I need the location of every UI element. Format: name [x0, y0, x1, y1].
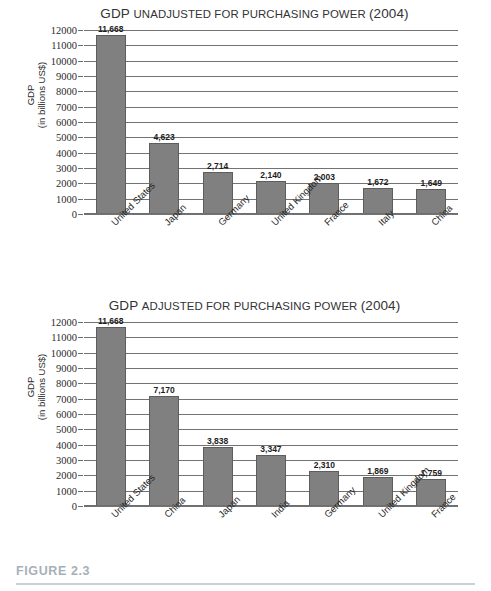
y-tick-mark — [78, 445, 83, 446]
y-tick-mark — [78, 399, 83, 400]
y-tick-label: 2000 — [56, 470, 77, 481]
chart-title-tail: (2004) — [369, 6, 409, 21]
y-tick-mark — [78, 414, 83, 415]
y-tick-label: 5000 — [56, 424, 77, 435]
y-tick-label: 12000 — [51, 25, 77, 36]
y-axis-label-unadjusted: GDP (in billions US$) — [25, 35, 47, 155]
y-tick-label: 11000 — [51, 332, 77, 343]
chart-title-adjusted: GDP ADJUSTED FOR PURCHASING POWER (2004) — [0, 296, 491, 316]
bar-slot: 2,310 — [298, 322, 351, 506]
category-slot: United Kingdom — [244, 216, 297, 288]
y-tick-mark — [78, 45, 83, 46]
y-tick-mark — [78, 107, 83, 108]
y-tick-mark — [78, 168, 83, 169]
y-tick-label: 10000 — [51, 55, 77, 66]
y-tick-label: 0 — [72, 501, 77, 512]
category-slot: Italy — [351, 216, 404, 288]
category-slot: China — [405, 216, 458, 288]
y-tick-label: 11000 — [51, 40, 77, 51]
y-tick-mark — [78, 199, 83, 200]
bar-value-label: 7,170 — [153, 385, 174, 395]
y-tick-mark — [78, 506, 83, 507]
plot-area-adjusted: 1200011000100009000800070006000500040003… — [84, 322, 458, 506]
y-axis-label-line1: GDP — [25, 377, 36, 398]
plot-area-unadjusted: 1200011000100009000800070006000500040003… — [84, 30, 458, 214]
y-tick-label: 5000 — [56, 132, 77, 143]
y-tick-label: 6000 — [56, 117, 77, 128]
y-tick-mark — [78, 368, 83, 369]
chart-title-smallcaps-3: POWER — [314, 300, 361, 312]
y-tick-mark — [78, 137, 83, 138]
bar-value-label: 1,672 — [367, 177, 388, 187]
bar: 7,170 — [149, 396, 179, 506]
y-tick-mark — [78, 61, 83, 62]
chart-gdp-adjusted: GDP ADJUSTED FOR PURCHASING POWER (2004)… — [0, 296, 491, 546]
y-tick-label: 3000 — [56, 455, 77, 466]
bar: 11,668 — [96, 35, 126, 214]
y-tick-mark — [78, 353, 83, 354]
y-tick-label: 12000 — [51, 317, 77, 328]
bar-series-unadjusted: 11,6684,6232,7142,1402,0031,6721,649 — [84, 30, 458, 214]
chart-title-unadjusted: GDP UNADJUSTED FOR PURCHASING POWER (200… — [0, 4, 491, 24]
bar-value-label: 3,838 — [207, 436, 228, 446]
bar: 4,623 — [149, 143, 179, 214]
plot-wrapper-unadjusted: GDP (in billions US$) 120001100010000900… — [0, 24, 491, 292]
gridline — [84, 214, 458, 215]
category-slot: Japan — [137, 216, 190, 288]
y-tick-label: 8000 — [56, 86, 77, 97]
y-tick-label: 9000 — [56, 71, 77, 82]
gridline — [84, 506, 458, 507]
y-tick-label: 8000 — [56, 378, 77, 389]
bar-slot: 11,668 — [84, 322, 137, 506]
y-tick-label: 3000 — [56, 163, 77, 174]
bar-slot: 3,838 — [191, 322, 244, 506]
figure-page: GDP UNADJUSTED FOR PURCHASING POWER (200… — [0, 0, 491, 591]
y-tick-label: 9000 — [56, 363, 77, 374]
chart-title-smallcaps-1: UNADJUSTED FOR — [134, 8, 242, 20]
y-tick-label: 1000 — [56, 485, 77, 496]
bar-value-label: 1,649 — [421, 178, 442, 188]
chart-title-smallcaps-3: POWER — [322, 8, 369, 20]
bar-slot: 1,869 — [351, 322, 404, 506]
y-tick-mark — [78, 383, 83, 384]
y-axis-label-line2: (in billions US$) — [36, 354, 47, 421]
bar-value-label: 2,140 — [260, 170, 281, 180]
bar-slot: 2,140 — [244, 30, 297, 214]
y-tick-mark — [78, 460, 83, 461]
y-tick-mark — [78, 491, 83, 492]
y-tick-mark — [78, 429, 83, 430]
y-tick-label: 1000 — [56, 193, 77, 204]
y-tick-label: 4000 — [56, 147, 77, 158]
bar-value-label: 2,714 — [207, 161, 228, 171]
x-axis-line — [84, 505, 458, 506]
category-slot: United States — [84, 216, 137, 288]
chart-title-smallcaps-1: ADJUSTED FOR — [142, 300, 234, 312]
chart-title-smallcaps-2: PURCHASING — [242, 8, 322, 20]
y-axis-label-line2: (in billions US$) — [36, 62, 47, 129]
chart-title-lead: GDP — [109, 298, 142, 313]
y-axis-label-line1: GDP — [25, 85, 36, 106]
category-slot: Germany — [191, 216, 244, 288]
bar-value-label: 3,347 — [260, 444, 281, 454]
figure-caption-label: FIGURE 2.3 — [0, 564, 491, 578]
chart-title-tail: (2004) — [361, 298, 401, 313]
y-tick-mark — [78, 183, 83, 184]
x-axis-line — [84, 213, 458, 214]
y-tick-label: 2000 — [56, 178, 77, 189]
category-slot: France — [298, 216, 351, 288]
bar-series-adjusted: 11,6687,1703,8383,3472,3101,8691,759 — [84, 322, 458, 506]
y-tick-label: 7000 — [56, 101, 77, 112]
bar-slot: 2,714 — [191, 30, 244, 214]
y-tick-label: 6000 — [56, 409, 77, 420]
plot-wrapper-adjusted: GDP (in billions US$) 120001100010000900… — [0, 316, 491, 544]
y-tick-mark — [78, 337, 83, 338]
category-labels-unadjusted: United StatesJapanGermanyUnited KingdomF… — [84, 216, 458, 288]
figure-caption-block: FIGURE 2.3 — [0, 564, 491, 585]
y-tick-mark — [78, 214, 83, 215]
y-tick-mark — [78, 322, 83, 323]
bar-slot: 11,668 — [84, 30, 137, 214]
y-tick-mark — [78, 153, 83, 154]
chart-gdp-unadjusted: GDP UNADJUSTED FOR PURCHASING POWER (200… — [0, 4, 491, 294]
bar-value-label: 1,869 — [367, 466, 388, 476]
bar-value-label: 11,668 — [98, 316, 124, 326]
